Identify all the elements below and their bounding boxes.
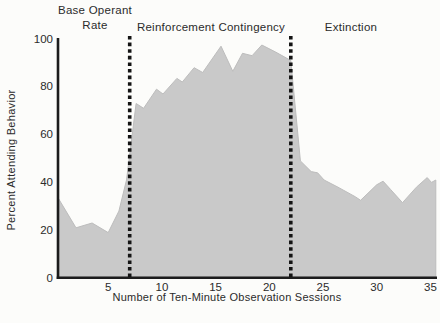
area-fill	[59, 45, 436, 277]
y-tick-label: 0	[21, 272, 53, 285]
phase-label-base-operant-rate: Base Operant Rate	[58, 3, 132, 33]
y-tick-label: 60	[21, 128, 53, 141]
y-tick-label: 80	[21, 80, 53, 93]
y-axis-title: Percent Attending Behavior	[5, 89, 17, 230]
phase-label-line: Rate	[82, 19, 107, 31]
figure-canvas: Base Operant Rate Reinforcement Continge…	[0, 0, 440, 323]
y-tick-label: 100	[21, 33, 53, 46]
area-chart	[0, 0, 440, 323]
phase-label-line: Base Operant	[58, 4, 132, 16]
x-axis-title: Number of Ten-Minute Observation Session…	[57, 291, 397, 303]
y-tick-label: 40	[21, 176, 53, 189]
phase-label-reinforcement-contingency: Reinforcement Contingency	[130, 20, 292, 35]
x-tick-label: 35	[417, 281, 440, 294]
y-tick-label: 20	[21, 224, 53, 237]
phase-label-extinction: Extinction	[292, 20, 410, 35]
